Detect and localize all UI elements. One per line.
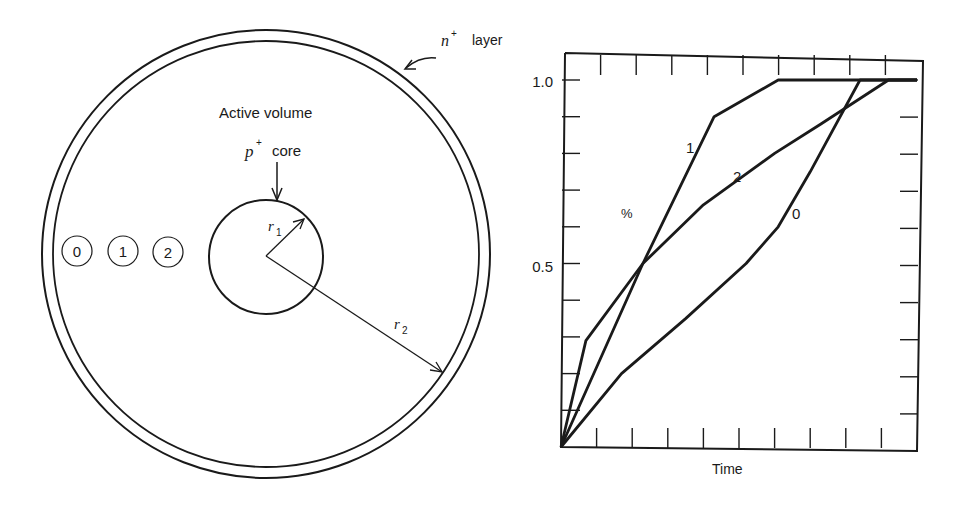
x-axis-label: Time bbox=[712, 461, 743, 477]
chart-frame bbox=[561, 53, 923, 451]
position-0-label: 0 bbox=[73, 243, 81, 260]
y-tick-label-0.5: 0.5 bbox=[532, 258, 553, 275]
curve-label-2: 2 bbox=[733, 168, 741, 185]
figure: n + layer Active volume p + core r 1 r 2… bbox=[0, 0, 956, 506]
r1-symbol: r bbox=[268, 218, 274, 234]
position-2-label: 2 bbox=[164, 244, 172, 261]
curve-label-0: 0 bbox=[792, 205, 800, 222]
detector-diagram bbox=[42, 30, 490, 478]
n-layer-text: layer bbox=[472, 32, 503, 48]
y-tick-label-1.0: 1.0 bbox=[532, 73, 553, 90]
n-layer-superscript: + bbox=[451, 28, 457, 39]
p-core-superscript: + bbox=[256, 137, 262, 148]
active-volume-label: Active volume bbox=[219, 104, 312, 121]
y-axis-label: % bbox=[621, 206, 633, 221]
chart-ticks bbox=[562, 55, 918, 448]
chart-curves bbox=[561, 80, 917, 447]
n-layer-symbol: n bbox=[441, 32, 449, 49]
p-core-symbol: p bbox=[244, 142, 254, 161]
curve-0 bbox=[561, 80, 917, 447]
r2-arrow bbox=[266, 256, 442, 372]
r2-subscript: 2 bbox=[402, 325, 408, 336]
chart: 0.5 1.0 % Time 1 2 0 bbox=[532, 53, 923, 477]
p-core-text: core bbox=[272, 142, 301, 159]
outer-n-layer-circle bbox=[42, 30, 490, 478]
r2-symbol: r bbox=[394, 316, 400, 332]
position-1-label: 1 bbox=[119, 243, 127, 260]
detector-labels: n + layer Active volume p + core r 1 r 2… bbox=[73, 28, 503, 336]
r1-subscript: 1 bbox=[276, 227, 282, 238]
curve-1 bbox=[561, 80, 917, 447]
chart-axes bbox=[561, 53, 923, 451]
curve-2 bbox=[561, 80, 917, 447]
p-core-circle bbox=[209, 200, 323, 314]
curve-label-1: 1 bbox=[686, 139, 694, 156]
